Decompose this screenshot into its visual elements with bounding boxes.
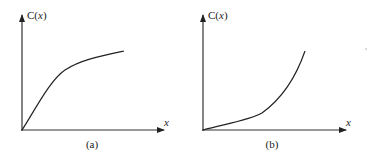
x-axis-label-b: x [345,116,351,128]
y-axis-label-b: C(x) [208,9,228,22]
stray-dot [365,48,366,49]
curve-a [22,51,124,130]
panel-a: C(x) x (a) [21,9,169,151]
panel-b: C(x) x (b) [202,9,351,151]
curve-b [203,51,305,130]
figure-canvas: C(x) x (a) C(x) x (b) [0,0,370,158]
caption-a: (a) [86,138,99,151]
x-axis-label-a: x [163,116,169,128]
y-axis-label-a: C(x) [27,9,47,22]
caption-b: (b) [266,138,279,151]
